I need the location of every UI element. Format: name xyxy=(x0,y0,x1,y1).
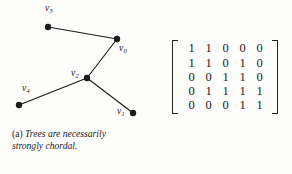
matrix-cell-r2-c0: 0 xyxy=(183,70,200,84)
matrix-cell-r0-c0: 1 xyxy=(183,41,200,55)
vertex-label-index-v3: 3 xyxy=(49,7,52,14)
tree-vertex-v1 xyxy=(130,110,136,116)
matrix-right-bracket xyxy=(271,40,278,114)
matrix-cell-r3-c3: 1 xyxy=(234,84,251,98)
matrix-row: 11010 xyxy=(183,56,268,70)
tree-vertex-v0 xyxy=(114,36,120,42)
matrix-cell-r3-c1: 1 xyxy=(200,84,217,98)
vertex-label-v1: v1 xyxy=(117,107,125,117)
matrix-row: 11000 xyxy=(183,41,268,55)
matrix-left-bracket xyxy=(172,40,179,114)
vertex-label-v4: v4 xyxy=(22,84,30,94)
matrix-cell-r2-c4: 0 xyxy=(251,70,268,84)
vertex-label-v0: v0 xyxy=(119,44,127,54)
tree-edge-v3-v0 xyxy=(48,27,117,39)
panel-a-tree: v0v1v2v3v4 (a) Trees are necessarily str… xyxy=(0,0,146,174)
matrix-cell-r0-c3: 0 xyxy=(234,41,251,55)
matrix-cell-r2-c1: 0 xyxy=(200,70,217,84)
caption-a-word-1: Trees xyxy=(25,128,45,139)
vertex-label-index-v2: 2 xyxy=(75,72,78,79)
vertex-label-index-v4: 4 xyxy=(26,87,29,94)
matrix-cell-r3-c4: 1 xyxy=(251,84,268,98)
matrix-cell-r1-c0: 1 xyxy=(183,56,200,70)
matrix-cell-r1-c1: 1 xyxy=(200,56,217,70)
matrix-container: 1100011010001100111100011 xyxy=(172,40,278,114)
matrix-cell-r2-c2: 1 xyxy=(217,70,234,84)
matrix-cell-r2-c3: 1 xyxy=(234,70,251,84)
matrix-row: 01111 xyxy=(183,84,268,98)
matrix-cell-r3-c2: 1 xyxy=(217,84,234,98)
panel-b-matrix: 1100011010001100111100011 (b) Neighborho… xyxy=(146,0,292,174)
tree-vertex-v4 xyxy=(16,102,22,108)
matrix-cell-r4-c1: 0 xyxy=(200,98,217,112)
caption-a-tag: (a) xyxy=(12,128,23,139)
caption-a: (a) Trees are necessarily strongly chord… xyxy=(12,128,136,153)
tree-edge-v2-v1 xyxy=(87,78,133,113)
caption-a-line-2: strongly chordal. xyxy=(12,140,136,152)
vertex-label-v2: v2 xyxy=(71,69,79,79)
matrix-cell-r3-c0: 0 xyxy=(183,84,200,98)
tree-vertex-v2 xyxy=(84,75,90,81)
caption-a-word-3: necessarily xyxy=(63,128,106,139)
matrix-cell-r4-c2: 0 xyxy=(217,98,234,112)
matrix-grid: 1100011010001100111100011 xyxy=(179,40,271,114)
matrix-cell-r4-c4: 1 xyxy=(251,98,268,112)
matrix-row: 00110 xyxy=(183,70,268,84)
tree-vertex-v3 xyxy=(45,24,51,30)
tree-edge-v0-v2 xyxy=(87,39,117,78)
caption-a-line-1: (a) Trees are necessarily xyxy=(12,128,136,140)
matrix-row: 00011 xyxy=(183,98,268,112)
vertex-label-v3: v3 xyxy=(45,4,53,14)
matrix-cell-r0-c4: 0 xyxy=(251,41,268,55)
matrix-cell-r1-c3: 1 xyxy=(234,56,251,70)
matrix-cell-r0-c2: 0 xyxy=(217,41,234,55)
vertex-label-index-v1: 1 xyxy=(121,110,124,117)
caption-a-word-2: are xyxy=(48,128,60,139)
matrix-cell-r1-c4: 0 xyxy=(251,56,268,70)
matrix-cell-r0-c1: 1 xyxy=(200,41,217,55)
matrix-cell-r4-c3: 1 xyxy=(234,98,251,112)
matrix-cell-r4-c0: 0 xyxy=(183,98,200,112)
matrix-cell-r1-c2: 0 xyxy=(217,56,234,70)
figure-page: v0v1v2v3v4 (a) Trees are necessarily str… xyxy=(0,0,292,174)
vertex-label-index-v0: 0 xyxy=(123,47,126,54)
